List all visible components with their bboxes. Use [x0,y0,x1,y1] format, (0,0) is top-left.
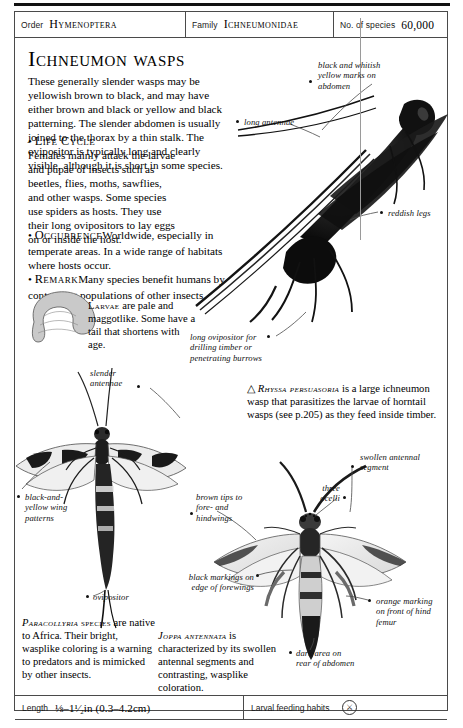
length-label: Length [22,703,48,713]
header-cell-order: Order Hymenoptera [15,12,185,37]
footer-cell-larval-feeding-habits: Larval feeding habits ⚔ [243,696,447,719]
annotation-brown-tips-to-fore-and-hindwings: brown tips to fore- and hindwings [196,492,242,523]
header-cell-species-count: No. of species 60,000 [333,12,447,37]
larval-feeding-habits-icon: ⚔ [342,700,357,715]
remark-heading: Remark [35,272,78,286]
occurrence-block: • OccurrenceWorldwide, especially in tem… [28,228,234,272]
caption-joppa-species: Joppa antennata [158,630,226,641]
annotation-black-markings-on-edge-of-forewings: black markings on edge of forewings [178,572,254,593]
caption-paracollyria-species: Paracollyria [22,617,78,628]
caption-paracollyria: Paracollyria species are native to Afric… [22,617,157,682]
family-label: Family [192,20,218,30]
order-label: Order [21,20,43,30]
caption-larvae-heading: Larvae [88,300,120,311]
caption-rhyssa: △ Rhyssa persuasoria is a large ichneumo… [247,383,443,422]
larval-feeding-habits-label: Larval feeding habits [251,703,329,713]
footer-cell-length: Length ⅛–1¹⁄₂in (0.3–4.2cm) [15,696,243,719]
page-footer: Length ⅛–1¹⁄₂in (0.3–4.2cm) Larval feedi… [15,695,447,720]
field-guide-page: Order Hymenoptera Family Ichneumonidae N… [0,0,463,728]
annotation-slender-antennae: slender antennae [90,368,122,389]
annotation-reddish-legs: reddish legs [388,208,431,218]
annotation-dark-area-on-rear-of-abdomen: dark area on rear of abdomen [296,648,354,669]
caption-paracollyria-species-suffix: species [81,617,111,628]
caption-larvae: Larvae are pale and maggotlike. Some hav… [88,300,198,352]
length-value: ⅛–1¹⁄₂in (0.3–4.2cm) [55,702,150,714]
bullet-life-cycle: • [28,135,32,147]
species-count-value: 60,000 [401,19,434,31]
family-value: Ichneumonidae [224,17,299,32]
header-cell-family: Family Ichneumonidae [185,12,333,37]
annotation-orange-marking-on-front-of-hind-femur: orange marking on front of hind femur [376,596,433,627]
life-cycle-heading: Life Cycle [35,134,95,148]
annotation-ovipositor: ovipositor [93,592,129,602]
annotation-black-and-yellow-wing-patterns: black-and- yellow wing patterns [25,492,67,523]
page-title: Ichneumon wasps [28,46,185,72]
top-rule [14,3,450,6]
caption-rhyssa-marker: △ [247,383,255,394]
taxonomy-header: Order Hymenoptera Family Ichneumonidae N… [15,12,447,38]
bullet-remark: • [28,273,32,285]
occurrence-heading: Occurrence [35,228,102,242]
order-value: Hymenoptera [49,17,117,32]
caption-rhyssa-species: Rhyssa persuasoria [258,383,340,394]
column-divider-top [360,18,361,240]
remark-line: • RemarkMany species benefit humans by c… [28,272,234,302]
annotation-three-ocelli: three ocelli [296,483,340,504]
annotation-long-ovipositor: long ovipositor for drilling timber or p… [190,332,262,363]
annotation-black-and-whitish-yellow-marks: black and whitish yellow marks on abdome… [318,60,380,91]
occurrence-line: • OccurrenceWorldwide, especially in tem… [28,228,234,272]
remark-block: • RemarkMany species benefit humans by c… [28,272,234,302]
annotation-long-antennae: long antennae [244,117,294,127]
bullet-occurrence: • [28,229,32,241]
annotation-swollen-antennal-segment: swollen antennal segment [360,452,420,473]
species-count-label: No. of species [340,20,395,30]
caption-joppa: Joppa antennata is characterized by its … [158,630,286,695]
